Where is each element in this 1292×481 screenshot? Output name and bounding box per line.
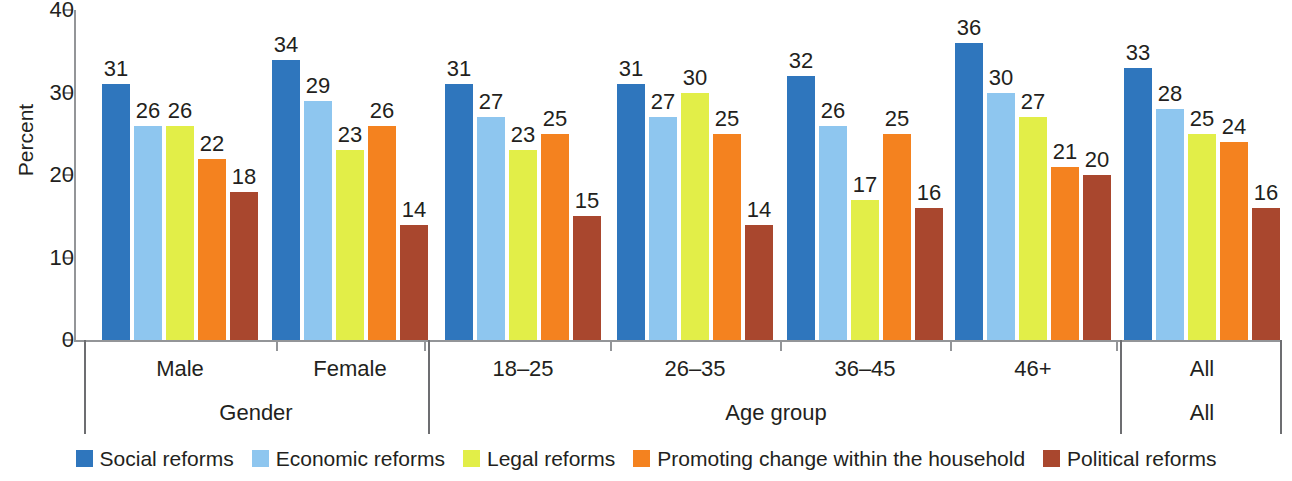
bar-column[interactable]: 25 — [883, 10, 911, 340]
bar[interactable] — [541, 134, 569, 340]
bar[interactable] — [272, 60, 300, 341]
supergroup-label: Gender — [219, 402, 292, 424]
bar[interactable] — [102, 84, 130, 340]
legend-item[interactable]: Political reforms — [1043, 448, 1216, 469]
bar-group: 3429232614 — [272, 10, 428, 340]
bar-value-label: 18 — [232, 166, 256, 188]
bar-group: 3226172516 — [787, 10, 943, 340]
bar-column[interactable]: 14 — [745, 10, 773, 340]
legend-item[interactable]: Legal reforms — [463, 448, 615, 469]
y-tick-label: 0 — [30, 329, 74, 351]
legend-item[interactable]: Economic reforms — [252, 448, 445, 469]
y-tick-label: 20 — [30, 164, 74, 186]
legend-item[interactable]: Promoting change within the household — [633, 448, 1025, 469]
bar[interactable] — [198, 159, 226, 341]
bar-value-label: 25 — [1190, 108, 1214, 130]
bar-value-label: 24 — [1222, 116, 1246, 138]
bar[interactable] — [1124, 68, 1152, 340]
bar-column[interactable]: 26 — [819, 10, 847, 340]
bar-column[interactable]: 30 — [987, 10, 1015, 340]
bar[interactable] — [166, 126, 194, 341]
bar[interactable] — [573, 216, 601, 340]
bar[interactable] — [851, 200, 879, 340]
bar[interactable] — [1252, 208, 1280, 340]
bar-column[interactable]: 28 — [1156, 10, 1184, 340]
bar[interactable] — [477, 117, 505, 340]
bar[interactable] — [1083, 175, 1111, 340]
bar[interactable] — [1019, 117, 1047, 340]
bar[interactable] — [134, 126, 162, 341]
bar[interactable] — [819, 126, 847, 341]
bar[interactable] — [336, 150, 364, 340]
bar-column[interactable]: 31 — [102, 10, 130, 340]
bar-column[interactable]: 25 — [713, 10, 741, 340]
bar[interactable] — [987, 93, 1015, 341]
bar-value-label: 22 — [200, 133, 224, 155]
bar-column[interactable]: 32 — [787, 10, 815, 340]
bar-column[interactable]: 27 — [1019, 10, 1047, 340]
bar-column[interactable]: 30 — [681, 10, 709, 340]
y-tick-label: 40 — [30, 0, 74, 21]
bar-column[interactable]: 26 — [368, 10, 396, 340]
bar-column[interactable]: 21 — [1051, 10, 1079, 340]
bar-column[interactable]: 18 — [230, 10, 258, 340]
bar-column[interactable]: 26 — [166, 10, 194, 340]
bar-column[interactable]: 27 — [477, 10, 505, 340]
bar-column[interactable]: 23 — [336, 10, 364, 340]
bar[interactable] — [745, 225, 773, 341]
bar[interactable] — [681, 93, 709, 341]
bar-column[interactable]: 20 — [1083, 10, 1111, 340]
category-label: 18–25 — [492, 358, 553, 380]
bar-column[interactable]: 24 — [1220, 10, 1248, 340]
bar-value-label: 27 — [479, 91, 503, 113]
bar[interactable] — [617, 84, 645, 340]
bar-column[interactable]: 25 — [541, 10, 569, 340]
bar-column[interactable]: 31 — [445, 10, 473, 340]
bar[interactable] — [915, 208, 943, 340]
bar[interactable] — [713, 134, 741, 340]
bar[interactable] — [304, 101, 332, 340]
bar-group: 3126262218 — [102, 10, 258, 340]
bar-value-label: 26 — [136, 100, 160, 122]
bar-column[interactable]: 36 — [955, 10, 983, 340]
bar-value-label: 21 — [1053, 141, 1077, 163]
bar-column[interactable]: 34 — [272, 10, 300, 340]
bar[interactable] — [230, 192, 258, 341]
bar[interactable] — [1156, 109, 1184, 340]
bar-column[interactable]: 29 — [304, 10, 332, 340]
bar[interactable] — [509, 150, 537, 340]
bar-column[interactable]: 22 — [198, 10, 226, 340]
bar-column[interactable]: 17 — [851, 10, 879, 340]
bar[interactable] — [649, 117, 677, 340]
bar[interactable] — [368, 126, 396, 341]
bar[interactable] — [400, 225, 428, 341]
bar[interactable] — [1220, 142, 1248, 340]
bar[interactable] — [1188, 134, 1216, 340]
legend-swatch-icon — [76, 450, 93, 467]
bar-column[interactable]: 15 — [573, 10, 601, 340]
bar-value-label: 34 — [274, 34, 298, 56]
category-label: All — [1190, 358, 1214, 380]
category-tick — [276, 340, 278, 351]
bar-value-label: 15 — [575, 190, 599, 212]
bar-column[interactable]: 23 — [509, 10, 537, 340]
bar[interactable] — [787, 76, 815, 340]
bar-column[interactable]: 31 — [617, 10, 645, 340]
bar-column[interactable]: 25 — [1188, 10, 1216, 340]
bar-value-label: 28 — [1158, 83, 1182, 105]
bar-column[interactable]: 16 — [1252, 10, 1280, 340]
bar[interactable] — [445, 84, 473, 340]
bar-value-label: 14 — [402, 199, 426, 221]
group-bracket — [428, 340, 430, 434]
bar-column[interactable]: 27 — [649, 10, 677, 340]
legend-item[interactable]: Social reforms — [76, 448, 234, 469]
bar-column[interactable]: 14 — [400, 10, 428, 340]
bar-column[interactable]: 33 — [1124, 10, 1152, 340]
bar[interactable] — [1051, 167, 1079, 340]
bar[interactable] — [883, 134, 911, 340]
bar-value-label: 14 — [747, 199, 771, 221]
bar[interactable] — [955, 43, 983, 340]
bar-column[interactable]: 26 — [134, 10, 162, 340]
bar-column[interactable]: 16 — [915, 10, 943, 340]
bar-value-label: 27 — [651, 91, 675, 113]
